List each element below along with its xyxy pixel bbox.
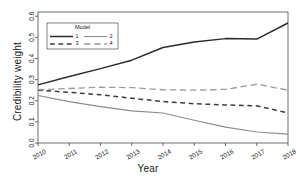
legend-box: Model1234 xyxy=(47,23,118,49)
credibility-weight-line-chart: 0.00.10.20.30.40.50.62010201120122013201… xyxy=(0,0,296,180)
series-line-4 xyxy=(38,84,288,90)
y-tick-label: 0.2 xyxy=(28,96,35,105)
y-tick-label: 0.1 xyxy=(28,117,35,126)
legend-label-3: 3 xyxy=(75,40,78,46)
y-tick-label: 0.6 xyxy=(28,11,35,20)
x-tick-label: 2012 xyxy=(94,147,110,160)
series-line-3 xyxy=(38,90,288,113)
y-tick-label: 0.5 xyxy=(28,32,35,41)
chart-canvas: 0.00.10.20.30.40.50.62010201120122013201… xyxy=(0,0,296,180)
legend-label-4: 4 xyxy=(109,40,112,46)
x-axis-title: Year xyxy=(0,163,296,174)
x-tick-label: 2010 xyxy=(31,147,47,160)
series-line-2 xyxy=(38,95,288,134)
y-axis-title: Credibility weight xyxy=(12,34,23,130)
legend-label-1: 1 xyxy=(75,33,78,39)
x-tick-label: 2017 xyxy=(250,147,266,160)
x-tick-label: 2014 xyxy=(156,147,172,160)
legend-label-2: 2 xyxy=(109,33,112,39)
y-tick-label: 0.3 xyxy=(28,75,35,84)
x-tick-label: 2016 xyxy=(219,147,235,160)
legend-title: Model xyxy=(75,24,90,30)
y-tick-label: 0.0 xyxy=(28,138,35,147)
x-tick-label: 2018 xyxy=(281,147,296,160)
y-tick-label: 0.4 xyxy=(28,54,35,63)
x-tick-label: 2011 xyxy=(63,147,79,160)
x-tick-label: 2013 xyxy=(125,147,141,160)
x-tick-label: 2015 xyxy=(187,147,203,160)
